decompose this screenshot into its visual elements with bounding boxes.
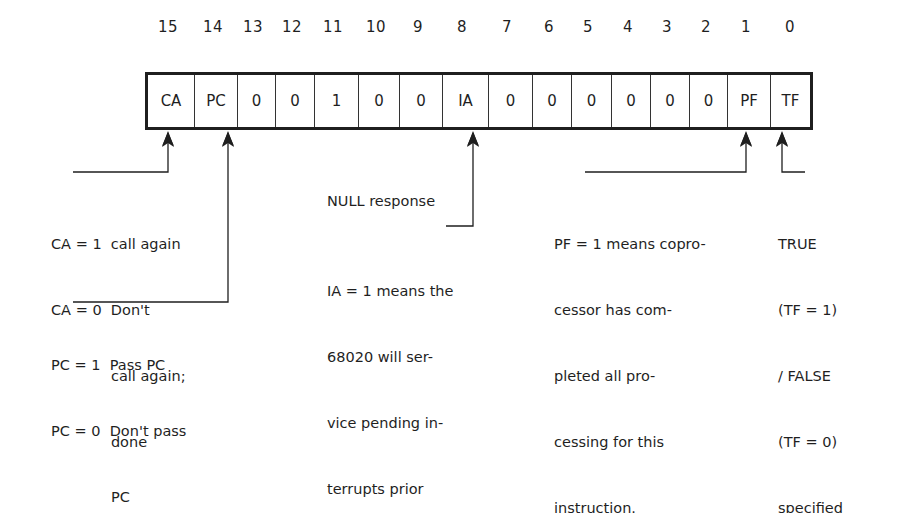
pf-line-3: pleted all pro- [554, 365, 706, 387]
ia-leader-line [446, 133, 473, 226]
pf-line-5: instruction. [554, 497, 706, 513]
pc-line-1: PC = 1 Pass PC [51, 354, 186, 376]
arrowheads [162, 131, 788, 147]
pf-line-2: cessor has com- [554, 299, 706, 321]
ia-line-2: 68020 will ser- [327, 346, 453, 368]
ca-line-1: CA = 1 call again [51, 233, 186, 255]
null-response-label: NULL response [327, 190, 435, 212]
tf-line-1: TRUE [778, 233, 861, 255]
pf-line-4: cessing for this [554, 431, 706, 453]
tf-line-3: / FALSE [778, 365, 861, 387]
pf-line-1: PF = 1 means copro- [554, 233, 706, 255]
ia-line-4: terrupts prior [327, 478, 453, 500]
ia-description: IA = 1 means the 68020 will ser- vice pe… [327, 236, 453, 513]
pf-description: PF = 1 means copro- cessor has com- plet… [554, 189, 706, 513]
pc-line-3: PC [51, 486, 186, 508]
ia-line-1: IA = 1 means the [327, 280, 453, 302]
tf-description: TRUE (TF = 1) / FALSE (TF = 0) specified… [778, 189, 861, 513]
pc-line-2: PC = 0 Don't pass [51, 420, 186, 442]
ca-leader-line [73, 133, 168, 172]
ia-line-3: vice pending in- [327, 412, 453, 434]
tf-leader-line [782, 133, 805, 172]
tf-line-4: (TF = 0) [778, 431, 861, 453]
pf-leader-line [585, 133, 746, 172]
pc-description: PC = 1 Pass PC PC = 0 Don't pass PC [51, 310, 186, 513]
tf-line-2: (TF = 1) [778, 299, 861, 321]
tf-line-5: specified [778, 497, 861, 513]
